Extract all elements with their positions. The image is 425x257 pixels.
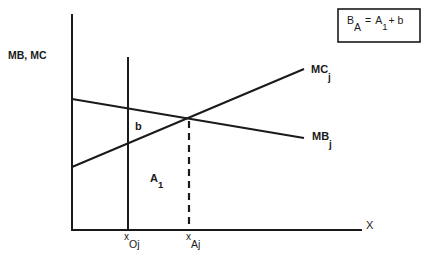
mb-label-main: MB bbox=[312, 130, 329, 142]
welfare-diagram: MB, MC X MCj MBj b A1 xOj xAj BA=A1+ b bbox=[0, 0, 425, 257]
mb-label-sub: j bbox=[328, 139, 332, 150]
mc-label-sub: j bbox=[327, 72, 331, 83]
x-oj-label: xOj bbox=[124, 231, 140, 250]
formula-box: BA=A1+ b bbox=[338, 9, 420, 42]
region-b-label: b bbox=[135, 120, 142, 132]
formula-lhs-main: B bbox=[347, 14, 354, 26]
formula-rhs-sub: 1 bbox=[382, 21, 387, 32]
formula-text: BA=A1+ b bbox=[347, 14, 404, 33]
x-axis-label: X bbox=[366, 219, 374, 231]
x-aj-label: xAj bbox=[186, 231, 200, 250]
formula-rhs-tail: + b bbox=[388, 14, 403, 26]
region-a1-label: A1 bbox=[150, 172, 164, 190]
x-oj-sub: Oj bbox=[129, 238, 140, 250]
formula-lhs-sub: A bbox=[354, 21, 361, 33]
a1-main: A bbox=[150, 172, 158, 184]
x-aj-sub: Aj bbox=[191, 238, 200, 250]
mb-curve-label: MBj bbox=[312, 130, 332, 150]
formula-eq: = bbox=[365, 14, 371, 26]
mc-curve bbox=[72, 69, 304, 167]
y-axis-label: MB, MC bbox=[8, 49, 47, 61]
mc-curve-label: MCj bbox=[311, 63, 331, 83]
formula-rhs-main: A bbox=[375, 14, 382, 26]
mc-label-main: MC bbox=[311, 63, 328, 75]
a1-sub: 1 bbox=[158, 179, 164, 190]
